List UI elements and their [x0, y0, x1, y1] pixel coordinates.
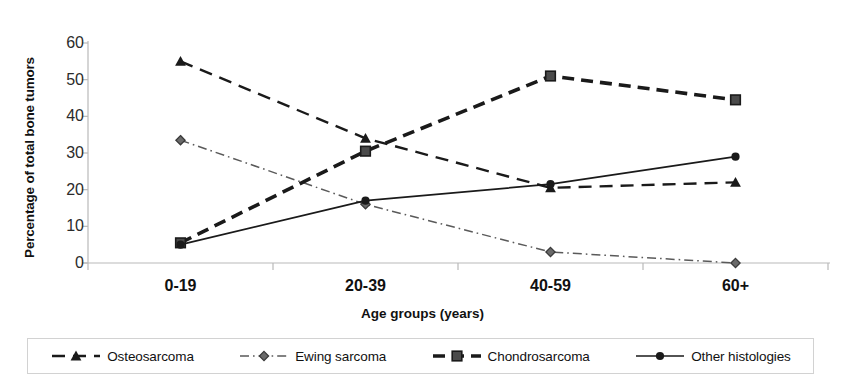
y-tick-label: 50 — [38, 71, 84, 89]
legend-line-sample — [431, 347, 483, 365]
legend-item[interactable]: Osteosarcoma — [50, 347, 194, 365]
triangle-marker — [175, 56, 186, 66]
square-marker — [361, 146, 371, 156]
x-tick-label: 20-39 — [345, 277, 386, 295]
series-line — [181, 140, 736, 263]
y-tick-label: 30 — [38, 144, 84, 162]
circle-marker — [731, 153, 739, 161]
y-tick-label: 40 — [38, 107, 84, 125]
legend-item[interactable]: Ewing sarcoma — [238, 347, 386, 365]
circle-marker — [546, 180, 554, 188]
y-axis-tick-labels: 0102030405060 — [32, 0, 84, 388]
legend-line-sample — [50, 347, 102, 365]
circle-marker — [361, 197, 369, 205]
y-tick-label: 0 — [38, 254, 84, 272]
y-tick-label: 60 — [38, 34, 84, 52]
series-ewing-sarcoma — [176, 136, 740, 268]
legend-label: Chondrosarcoma — [488, 349, 590, 364]
legend-item[interactable]: Chondrosarcoma — [431, 347, 590, 365]
chart-legend: OsteosarcomaEwing sarcomaChondrosarcomaO… — [27, 338, 814, 374]
plot-canvas — [0, 0, 845, 388]
series-chondrosarcoma — [176, 71, 741, 247]
y-tick-label: 10 — [38, 217, 84, 235]
legend-label: Osteosarcoma — [107, 349, 194, 364]
legend-label: Other histologies — [691, 349, 791, 364]
circle-marker — [176, 241, 184, 249]
diamond-marker — [731, 258, 740, 267]
x-tick-label: 60+ — [722, 277, 749, 295]
x-tick-label: 0-19 — [164, 277, 196, 295]
diamond-marker — [176, 136, 185, 145]
legend-line-sample — [634, 347, 686, 365]
circle-marker — [656, 352, 664, 360]
diamond-marker — [260, 351, 269, 360]
square-marker — [452, 351, 462, 361]
axes — [82, 41, 830, 270]
series-osteosarcoma — [175, 56, 741, 192]
square-marker — [731, 95, 741, 105]
series-other-histologies — [176, 153, 739, 249]
y-tick-label: 20 — [38, 181, 84, 199]
series-line — [181, 157, 736, 245]
x-axis-title: Age groups (years) — [0, 306, 845, 321]
series-line — [181, 76, 736, 243]
x-tick-label: 40-59 — [530, 277, 571, 295]
legend-line-sample — [238, 347, 290, 365]
square-marker — [546, 71, 556, 81]
chart-figure: Percentage of total bone tumors 01020304… — [0, 0, 845, 388]
legend-label: Ewing sarcoma — [295, 349, 386, 364]
diamond-marker — [546, 247, 555, 256]
legend-item[interactable]: Other histologies — [634, 347, 791, 365]
